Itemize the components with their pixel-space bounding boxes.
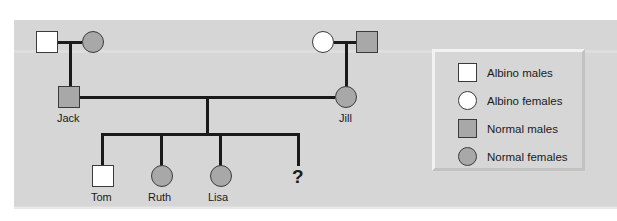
legend-albino-male-label: Albino males bbox=[487, 67, 553, 79]
gen1-right-normal-male-symbol bbox=[356, 31, 378, 53]
unknown-child-descent-line bbox=[297, 133, 300, 166]
legend-albino-male-icon bbox=[458, 63, 477, 82]
legend-item-albino-females: Albino females bbox=[458, 91, 562, 110]
scan-band-lower bbox=[14, 206, 617, 209]
tom-label: Tom bbox=[91, 191, 112, 203]
ruth-descent-line bbox=[160, 133, 163, 166]
tom-descent-line bbox=[101, 133, 104, 166]
jill-symbol bbox=[335, 86, 357, 108]
pedigree-figure: Jack Jill Tom Ruth Lisa ? Albino males bbox=[0, 0, 617, 221]
gen1-left-descent-line bbox=[69, 41, 72, 88]
legend-item-normal-males: Normal males bbox=[458, 119, 558, 138]
legend-item-albino-males: Albino males bbox=[458, 63, 553, 82]
gen1-left-albino-male-symbol bbox=[36, 31, 58, 53]
legend-normal-male-label: Normal males bbox=[487, 123, 558, 135]
gen1-right-albino-female-symbol bbox=[312, 31, 334, 53]
jack-label: Jack bbox=[57, 112, 80, 124]
jill-label: Jill bbox=[339, 112, 352, 124]
legend-normal-female-icon bbox=[458, 147, 477, 166]
legend-normal-male-icon bbox=[458, 119, 477, 138]
ruth-label: Ruth bbox=[148, 191, 171, 203]
legend-albino-female-label: Albino females bbox=[487, 95, 562, 107]
lisa-label: Lisa bbox=[208, 191, 228, 203]
legend-normal-female-label: Normal females bbox=[487, 151, 568, 163]
ruth-symbol bbox=[151, 165, 173, 187]
lisa-descent-line bbox=[219, 133, 222, 166]
sibship-line bbox=[101, 133, 297, 136]
sibship-drop-line bbox=[206, 96, 209, 135]
gen1-right-descent-line bbox=[345, 41, 348, 88]
jack-symbol bbox=[58, 86, 80, 108]
legend-albino-female-icon bbox=[458, 91, 477, 110]
legend-item-normal-females: Normal females bbox=[458, 147, 568, 166]
pedigree-canvas: Jack Jill Tom Ruth Lisa ? Albino males bbox=[14, 20, 617, 207]
lisa-symbol bbox=[210, 165, 232, 187]
legend-box: Albino males Albino females Normal males… bbox=[432, 49, 585, 171]
tom-symbol bbox=[92, 165, 114, 187]
gen1-left-normal-female-symbol bbox=[82, 31, 104, 53]
unknown-child-question-mark: ? bbox=[292, 167, 304, 186]
